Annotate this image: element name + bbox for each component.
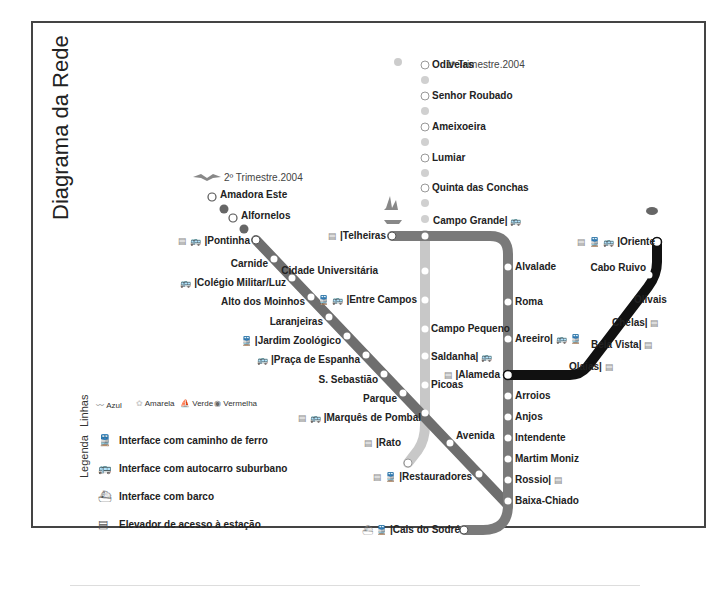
bus-icon: 🚌 bbox=[603, 236, 614, 248]
elevator-icon: ▤ bbox=[554, 474, 563, 486]
elevator-icon: ▤ bbox=[444, 369, 453, 381]
train-icon: 🚆 bbox=[385, 471, 396, 483]
station-campo-pequeno[interactable]: Campo Pequeno bbox=[431, 323, 510, 335]
train-icon: 🚆 bbox=[376, 524, 387, 536]
station-lumiar[interactable]: Lumiar bbox=[432, 152, 465, 164]
legend-line-verde: ⛵ Verde bbox=[180, 399, 213, 408]
station-quinta-das-conchas[interactable]: Quinta das Conchas bbox=[432, 182, 529, 194]
elevator-icon: ▤ bbox=[98, 518, 108, 531]
train-icon: 🚆 bbox=[589, 236, 600, 248]
station-telheiras[interactable]: ▤|Telheiras bbox=[328, 230, 386, 242]
station-avenida[interactable]: Avenida bbox=[456, 430, 495, 442]
legend-boat: Interface com barco bbox=[119, 491, 214, 502]
station-amadora-este[interactable]: Amadora Este bbox=[220, 189, 287, 201]
bus-icon: 🚌 bbox=[257, 354, 268, 366]
station-alfornelos[interactable]: Alfornelos bbox=[241, 210, 290, 222]
elevator-icon: ▤ bbox=[328, 230, 337, 242]
elevator-icon: ▤ bbox=[298, 412, 307, 424]
bus-icon: 🚌 bbox=[556, 333, 567, 345]
station-colegio-militar[interactable]: 🚌|Colégio Militar/Luz bbox=[180, 277, 286, 289]
station-saldanha[interactable]: Saldanha| 🚌 bbox=[431, 351, 495, 363]
sunflower-icon bbox=[394, 58, 402, 66]
station-alameda[interactable]: ▤|Alameda bbox=[444, 369, 501, 381]
elevator-icon: ▤ bbox=[644, 339, 653, 351]
station-odivelas[interactable]: Odivelas bbox=[432, 59, 474, 71]
station-pontinha[interactable]: ▤🚌|Pontinha bbox=[178, 235, 250, 247]
station-cabo-ruivo[interactable]: Cabo Ruivo bbox=[590, 262, 646, 274]
legend-lines-heading: Linhas bbox=[78, 395, 90, 427]
boat-icon: ⛴ bbox=[98, 490, 112, 503]
legend-line-amarela: ✿ Amarela bbox=[136, 399, 175, 408]
bus-icon: 🚌 bbox=[310, 412, 321, 424]
bus-icon: 🚌 bbox=[510, 215, 521, 227]
station-jardim-zoologico[interactable]: 🚆|Jardim Zoológico bbox=[241, 335, 341, 347]
station-areeiro[interactable]: Areeiro| 🚌🚆 bbox=[515, 333, 584, 345]
station-anjos[interactable]: Anjos bbox=[515, 411, 543, 423]
elevator-icon: ▤ bbox=[373, 471, 382, 483]
bus-icon: 🚌 bbox=[332, 294, 343, 306]
station-senhor-roubado[interactable]: Senhor Roubado bbox=[432, 90, 513, 102]
station-baixa-chiado[interactable]: Baixa-Chiado bbox=[515, 495, 579, 507]
station-praca-de-espanha[interactable]: 🚌|Praça de Espanha bbox=[257, 354, 360, 366]
bus-icon: 🚌 bbox=[481, 351, 492, 363]
elevator-icon: ▤ bbox=[577, 236, 586, 248]
station-cais-do-sodre[interactable]: ⛴🚆|Cais do Sodré bbox=[362, 524, 460, 536]
station-olaias[interactable]: Olaias| ▤ bbox=[569, 361, 617, 373]
station-marques-de-pombal[interactable]: ▤🚌|Marquês de Pombal bbox=[298, 412, 421, 424]
boat-icon: ⛴ bbox=[362, 524, 373, 536]
train-icon: 🚆 bbox=[570, 333, 581, 345]
station-martim-moniz[interactable]: Martim Moniz bbox=[515, 453, 579, 465]
train-icon: 🚆 bbox=[241, 335, 252, 347]
legend-line-vermelha: ◉ Vermelha bbox=[214, 399, 257, 408]
station-oriente[interactable]: ▤🚆🚌|Oriente bbox=[577, 236, 655, 248]
station-parque[interactable]: Parque bbox=[363, 393, 397, 405]
bus-icon: 🚌 bbox=[190, 235, 201, 247]
station-olivais[interactable]: Olivais bbox=[634, 294, 667, 306]
sunflower-icon: ✿ bbox=[136, 399, 143, 408]
legend-bus: Interface com autocarro suburbano bbox=[119, 463, 287, 474]
station-alvalade[interactable]: Alvalade bbox=[515, 261, 556, 273]
station-s-sebastiao[interactable]: S. Sebastião bbox=[319, 374, 378, 386]
station-rossio[interactable]: Rossio| ▤ bbox=[515, 474, 566, 486]
blue-extension-note: 2º Trimestre.2004 bbox=[224, 172, 303, 183]
station-laranjeiras[interactable]: Laranjeiras bbox=[270, 316, 323, 328]
station-chelas[interactable]: Chelas| ▤ bbox=[612, 317, 662, 329]
station-arroios[interactable]: Arroios bbox=[515, 390, 551, 402]
elevator-icon: ▤ bbox=[605, 361, 614, 373]
legend-heading: Legenda bbox=[78, 435, 90, 478]
station-carnide[interactable]: Carnide bbox=[231, 258, 268, 270]
station-entre-campos[interactable]: 🚆🚌|Entre Campos bbox=[318, 294, 417, 306]
station-restauradores[interactable]: ▤🚆|Restauradores bbox=[373, 471, 472, 483]
train-icon: 🚆 bbox=[98, 434, 112, 447]
station-rato[interactable]: ▤|Rato bbox=[364, 437, 401, 449]
ship-icon bbox=[384, 196, 402, 224]
elevator-icon: ▤ bbox=[650, 317, 659, 329]
station-ameixoeira[interactable]: Ameixoeira bbox=[432, 121, 486, 133]
gull-icon: 〰 bbox=[96, 401, 104, 410]
station-alto-dos-moinhos[interactable]: Alto dos Moinhos bbox=[221, 296, 305, 308]
station-bela-vista[interactable]: Bela Vista| ▤ bbox=[591, 339, 656, 351]
gull-icon bbox=[193, 174, 221, 181]
compass-icon: ◉ bbox=[214, 399, 221, 408]
bus-icon: 🚌 bbox=[180, 277, 191, 289]
ship-icon: ⛵ bbox=[180, 399, 190, 408]
elevator-icon: ▤ bbox=[364, 437, 373, 449]
bus-icon: 🚌 bbox=[98, 462, 112, 475]
station-intendente[interactable]: Intendente bbox=[515, 432, 566, 444]
compass-icon bbox=[646, 207, 658, 215]
train-icon: 🚆 bbox=[318, 294, 329, 306]
legend-line-azul: 〰 Azul bbox=[96, 399, 122, 410]
station-cidade-universitaria[interactable]: Cidade Universitária bbox=[281, 265, 378, 277]
station-roma[interactable]: Roma bbox=[515, 296, 543, 308]
legend-elevator: Elevador de acesso à estação bbox=[119, 519, 261, 530]
station-campo-grande[interactable]: Campo Grande| 🚌 bbox=[433, 215, 524, 227]
legend-train: Interface com caminho de ferro bbox=[119, 435, 268, 446]
elevator-icon: ▤ bbox=[178, 235, 187, 247]
